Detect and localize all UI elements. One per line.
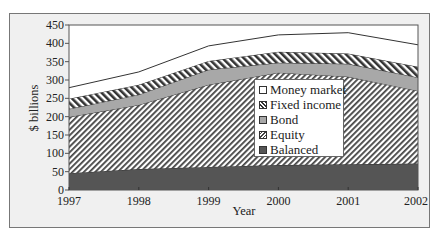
fixed-income-swatch-icon [259, 101, 267, 109]
bond-swatch-icon [259, 116, 267, 124]
legend-item-equity: Equity [259, 127, 343, 142]
balanced-swatch-icon [259, 146, 267, 154]
x-tick-label: 2001 [336, 194, 360, 208]
y-axis-label: $ billions [27, 84, 41, 131]
x-tick-label: 2002 [404, 194, 428, 208]
y-tick-label: 50 [52, 165, 64, 179]
x-tick-label: 1997 [57, 194, 81, 208]
legend: Money market Fixed income Bond Equity Ba… [254, 79, 344, 157]
y-tick-label: 450 [46, 18, 64, 32]
equity-swatch-icon [259, 131, 267, 139]
y-tick-label: 400 [46, 36, 64, 50]
stacked-area-chart: 050100150200250300350400450 199719981999… [0, 0, 436, 237]
y-tick-label: 350 [46, 55, 64, 69]
legend-item-bond: Bond [259, 112, 343, 127]
legend-item-money-market: Money market [259, 82, 343, 97]
y-tick-label: 100 [46, 146, 64, 160]
x-tick-label: 1999 [197, 194, 221, 208]
y-tick-label: 150 [46, 128, 64, 142]
y-tick-label: 250 [46, 91, 64, 105]
x-tick-label: 2000 [266, 194, 290, 208]
y-tick-label: 300 [46, 73, 64, 87]
x-tick-label: 1998 [127, 194, 151, 208]
money-market-swatch-icon [259, 86, 267, 94]
legend-item-fixed-income: Fixed income [259, 97, 343, 112]
x-axis-label: Year [232, 204, 256, 218]
y-tick-label: 200 [46, 110, 64, 124]
legend-item-balanced: Balanced [259, 142, 343, 157]
